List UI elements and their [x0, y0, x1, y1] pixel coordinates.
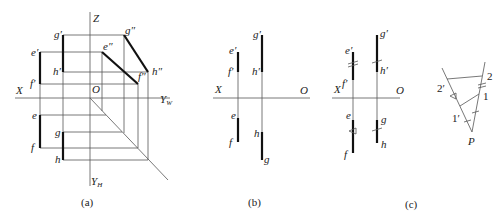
caption-b: (b): [248, 196, 261, 209]
label-e-dprime: e″: [103, 40, 113, 52]
label-o: O: [396, 84, 404, 96]
label-g: g: [381, 113, 387, 125]
label-1-prime: 1′: [452, 112, 460, 124]
label-g-prime: g′: [54, 28, 63, 40]
label-g-dprime: g″: [125, 24, 136, 36]
label-x: X: [15, 84, 24, 96]
label-e: e: [32, 109, 37, 121]
label-h-prime: h′: [380, 64, 389, 76]
segment-gh-side: [124, 35, 148, 72]
label-2: 2: [487, 70, 493, 82]
label-h-prime: h′: [53, 65, 62, 77]
panel-a: Z X O YW YH e′ f′ g′ h′ e″ f″ g″ h″ e f …: [15, 12, 173, 209]
label-f-dprime: f″: [138, 70, 146, 82]
label-yh: YH: [91, 175, 103, 189]
label-e-prime: e′: [31, 46, 39, 58]
tick-mark: [478, 86, 486, 88]
label-f-prime: f′: [30, 77, 36, 89]
segment-2prime-2: [447, 76, 482, 79]
proportion-construction: 2′ 2 1 1′ P: [437, 62, 493, 147]
label-2-prime: 2′: [437, 82, 445, 94]
label-f-prime: f′: [342, 77, 348, 89]
label-o: O: [92, 83, 100, 95]
projection-diagram: Z X O YW YH e′ f′ g′ h′ e″ f″ g″ h″ e f …: [0, 0, 501, 219]
label-x: X: [214, 83, 223, 95]
label-z: Z: [93, 12, 100, 24]
label-f: f: [344, 148, 349, 160]
caption-c: (c): [405, 198, 418, 211]
panel-c: e′ f′ g′ h′ X O e f g h 2′ 2 1 1′ P (c): [332, 27, 493, 211]
label-e: e: [346, 109, 351, 121]
segment-1prime-1: [460, 94, 479, 106]
label-g-prime: g′: [380, 27, 389, 39]
panel-b: X O e′ f′ g′ h′ e f h g (b): [213, 28, 310, 209]
label-f-prime: f′: [228, 65, 234, 77]
label-e-prime: e′: [229, 44, 237, 56]
segment-ef-side: [102, 52, 138, 84]
label-yw: YW: [160, 93, 173, 107]
label-e: e: [231, 109, 236, 121]
label-g-prime: g′: [253, 28, 262, 40]
label-e-prime: e′: [345, 44, 353, 56]
caption-a: (a): [81, 196, 94, 209]
label-o: O: [300, 84, 308, 96]
tick-mark: [478, 83, 486, 85]
label-h: h: [381, 138, 387, 150]
label-g: g: [55, 126, 61, 138]
label-x: X: [333, 83, 342, 95]
label-g: g: [264, 153, 270, 165]
label-f: f: [31, 141, 36, 153]
label-h: h: [55, 153, 61, 165]
label-f: f: [229, 136, 234, 148]
label-1: 1: [483, 90, 489, 102]
label-h: h: [254, 127, 260, 139]
label-p: P: [467, 135, 475, 147]
label-h-dprime: h″: [152, 65, 163, 77]
label-h-prime: h′: [252, 65, 261, 77]
